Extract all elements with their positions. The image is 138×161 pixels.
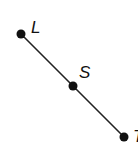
point-t — [120, 133, 129, 142]
point-l — [17, 30, 26, 39]
label-s: S — [79, 63, 91, 82]
point-s — [69, 82, 78, 91]
segment-diagram: L S T — [0, 0, 138, 161]
label-t: T — [133, 127, 138, 146]
label-l: L — [31, 18, 40, 37]
